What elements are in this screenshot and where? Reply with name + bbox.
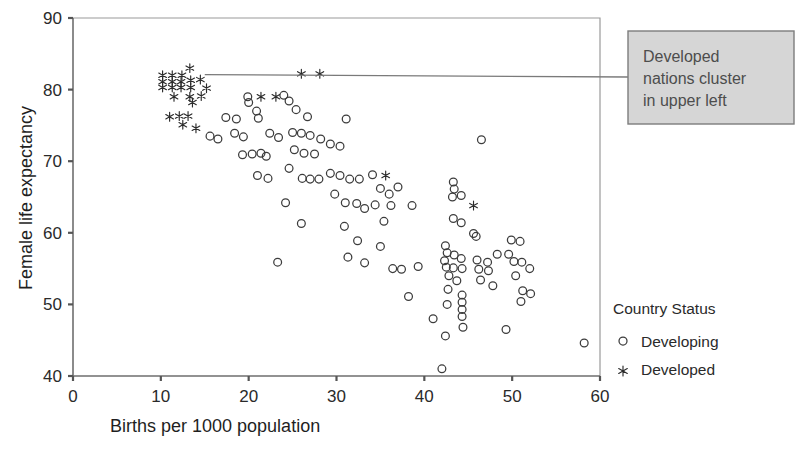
data-point-developing: [459, 323, 467, 331]
data-point-developing: [453, 277, 461, 285]
data-point-developing: [502, 326, 510, 334]
series-developing-points: [206, 91, 588, 372]
x-tick-label-20: 20: [239, 387, 258, 406]
data-point-developing: [457, 192, 465, 200]
data-point-developing: [297, 129, 305, 137]
data-point-developing: [342, 115, 350, 123]
x-tick-label-40: 40: [415, 387, 434, 406]
data-point-developing: [292, 106, 300, 114]
data-point-developing: [282, 199, 290, 207]
data-point-developing: [457, 255, 465, 263]
data-point-developing: [275, 134, 283, 142]
x-tick-label-30: 30: [327, 387, 346, 406]
annotation-line-2: nations cluster: [643, 70, 747, 87]
data-point-developing: [354, 237, 362, 245]
data-point-developing: [387, 202, 395, 210]
data-point-developing: [336, 172, 344, 180]
data-point-developed: [170, 92, 178, 101]
data-point-developed: [166, 112, 174, 121]
data-point-developing: [510, 258, 518, 266]
data-point-developing: [377, 243, 385, 251]
data-point-developing: [311, 150, 319, 158]
legend-label-developed: Developed: [641, 361, 715, 378]
annotation-line-1: Developed: [643, 48, 720, 65]
x-axis-title: Births per 1000 population: [110, 416, 320, 436]
data-point-developing: [385, 190, 393, 198]
data-point-developing: [306, 175, 314, 183]
data-point-developing: [377, 185, 385, 193]
data-point-developing: [405, 293, 413, 301]
data-point-developing: [285, 164, 293, 172]
data-point-developing: [443, 301, 451, 309]
data-point-developing: [341, 199, 349, 207]
x-tick-label-0: 0: [68, 387, 77, 406]
data-point-developing: [442, 242, 450, 250]
data-point-developed: [203, 84, 211, 93]
data-point-developed: [470, 201, 478, 210]
data-point-developing: [326, 169, 334, 177]
data-point-developing: [254, 114, 262, 122]
data-point-developing: [371, 201, 379, 209]
data-point-developing: [518, 258, 526, 266]
data-point-developing: [232, 115, 240, 123]
data-point-developing: [315, 175, 323, 183]
data-point-developing: [344, 253, 352, 261]
data-point-developing: [239, 133, 247, 141]
data-point-developing: [297, 220, 305, 228]
data-point-developing: [485, 267, 493, 275]
data-point-developing: [266, 129, 274, 137]
data-point-developing: [353, 200, 361, 208]
data-point-developing: [248, 150, 256, 158]
data-point-developing: [264, 174, 272, 182]
y-axis-ticks: 405060708090: [43, 9, 73, 386]
data-point-developing: [445, 272, 453, 280]
data-point-developing: [346, 175, 354, 183]
data-point-developing: [206, 132, 214, 140]
data-point-developed: [159, 83, 167, 92]
data-point-developing: [389, 265, 397, 273]
data-point-developing: [438, 365, 446, 373]
data-point-developing: [449, 193, 457, 201]
data-point-developing: [580, 339, 588, 347]
data-point-developing: [519, 287, 527, 295]
x-tick-label-10: 10: [151, 387, 170, 406]
data-point-developing: [489, 282, 497, 290]
data-point-developing: [245, 99, 253, 107]
data-point-developed: [257, 92, 265, 101]
legend-marker-developing-icon: [619, 337, 627, 345]
data-point-developing: [484, 258, 492, 266]
data-point-developing: [317, 135, 325, 143]
data-point-developing: [253, 107, 261, 115]
data-point-developing: [336, 142, 344, 150]
data-point-developed: [178, 71, 186, 80]
legend-title: Country Status: [613, 300, 716, 317]
legend-label-developing: Developing: [641, 333, 719, 350]
data-point-developing: [231, 129, 239, 137]
data-point-developing: [341, 222, 349, 230]
data-point-developing: [239, 151, 247, 159]
data-point-developing: [478, 136, 486, 144]
data-point-developing: [516, 237, 524, 245]
data-point-developed: [186, 64, 194, 73]
scatter-chart: 405060708090 0102030405060 Births per 10…: [0, 0, 804, 455]
data-point-developing: [380, 217, 388, 225]
data-point-developing: [331, 190, 339, 198]
data-point-developing: [526, 265, 534, 273]
data-point-developing: [512, 272, 520, 280]
legend: Country Status Developing Developed: [613, 300, 719, 378]
data-point-developed: [272, 92, 280, 101]
data-point-developing: [458, 265, 466, 273]
data-point-developed: [298, 69, 306, 78]
data-point-developed: [179, 120, 187, 129]
data-point-developing: [306, 132, 314, 140]
data-point-developing: [473, 256, 481, 264]
data-point-developing: [477, 276, 485, 284]
annotation-callout: Developed nations cluster in upper left: [628, 31, 794, 124]
data-point-developing: [300, 149, 308, 157]
data-point-developed: [197, 75, 205, 84]
data-point-developing: [274, 258, 282, 266]
data-point-developed: [177, 83, 185, 92]
data-point-developing: [285, 97, 293, 105]
data-point-developing: [457, 219, 465, 227]
data-point-developed: [382, 171, 390, 180]
